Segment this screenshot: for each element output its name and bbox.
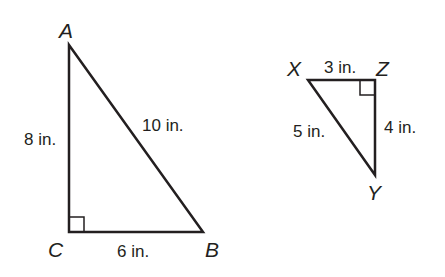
vertex-label-x: X <box>286 57 302 80</box>
triangle-abc-outline <box>69 45 203 232</box>
side-label-zy: 4 in. <box>384 118 416 137</box>
vertex-label-y: Y <box>367 181 383 204</box>
right-angle-marker-z <box>360 80 375 95</box>
side-label-ac: 8 in. <box>24 130 56 149</box>
side-label-xy: 5 in. <box>293 122 325 141</box>
side-label-cb: 6 in. <box>117 242 149 261</box>
vertex-label-c: C <box>48 238 64 261</box>
right-angle-marker-c <box>69 217 84 232</box>
triangle-abc: A C B 8 in. 6 in. 10 in. <box>24 19 219 261</box>
vertex-label-a: A <box>57 19 73 42</box>
vertex-label-z: Z <box>375 57 390 80</box>
triangle-xyz: X Z Y 3 in. 4 in. 5 in. <box>286 57 416 204</box>
side-label-xz: 3 in. <box>324 58 356 77</box>
vertex-label-b: B <box>205 238 219 261</box>
diagram-canvas: A C B 8 in. 6 in. 10 in. X Z Y 3 in. 4 i… <box>0 0 445 277</box>
side-label-ab: 10 in. <box>142 116 184 135</box>
